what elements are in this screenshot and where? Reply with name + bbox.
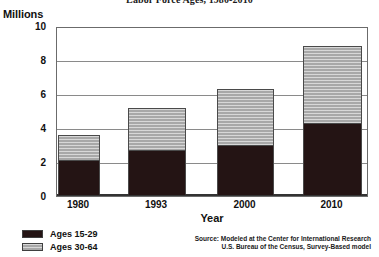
legend-swatch-icon-dark [22, 230, 43, 238]
y-tick-label: 4 [40, 124, 46, 134]
x-axis-tick-labels: 1980 1993 2000 2010 [56, 199, 368, 213]
bar-segment-ages-15-29[interactable] [58, 160, 100, 195]
y-tick-label: 8 [40, 56, 46, 66]
bar-1980[interactable] [58, 135, 100, 195]
y-tick-label: 2 [40, 158, 46, 168]
legend-item-ages-30-64[interactable]: Ages 30-64 [22, 241, 98, 252]
legend-item-ages-15-29[interactable]: Ages 15-29 [22, 228, 98, 239]
plot-area [56, 27, 368, 197]
x-tick-label-1980: 1980 [56, 199, 100, 210]
bar-1993[interactable] [128, 108, 186, 195]
x-axis-title: Year [56, 212, 368, 224]
legend-label: Ages 15-29 [50, 229, 98, 239]
legend: Ages 15-29 Ages 30-64 [22, 228, 98, 254]
bar-2010[interactable] [303, 46, 362, 195]
y-tick-label: 6 [40, 90, 46, 100]
source-note: Source: Modeled at the Center for Intern… [195, 235, 371, 251]
y-tick-label: 0 [40, 192, 46, 202]
x-tick-label-2000: 2000 [216, 199, 273, 210]
chart-title: Labor Force Ages, 1980-2010 [0, 0, 379, 5]
bar-segment-ages-15-29[interactable] [128, 150, 186, 195]
y-tick-label: 10 [35, 22, 46, 32]
legend-label: Ages 30-64 [50, 242, 98, 252]
x-tick-label-1993: 1993 [128, 199, 184, 210]
y-axis-tick-labels: 10 8 6 4 2 0 [0, 0, 52, 257]
bar-segment-ages-30-64[interactable] [128, 108, 186, 150]
legend-swatch-icon-light [22, 243, 43, 251]
x-tick-label-2010: 2010 [302, 199, 361, 210]
bar-segment-ages-30-64[interactable] [58, 135, 100, 160]
bar-segment-ages-15-29[interactable] [303, 123, 362, 195]
bar-segment-ages-15-29[interactable] [217, 145, 274, 195]
source-line-1: Source: Modeled at the Center for Intern… [195, 235, 371, 243]
bar-segment-ages-30-64[interactable] [303, 46, 362, 123]
source-line-2: U.S. Bureau of the Census, Survey-Based … [195, 243, 371, 251]
bar-2000[interactable] [217, 89, 274, 195]
bar-segment-ages-30-64[interactable] [217, 89, 274, 145]
